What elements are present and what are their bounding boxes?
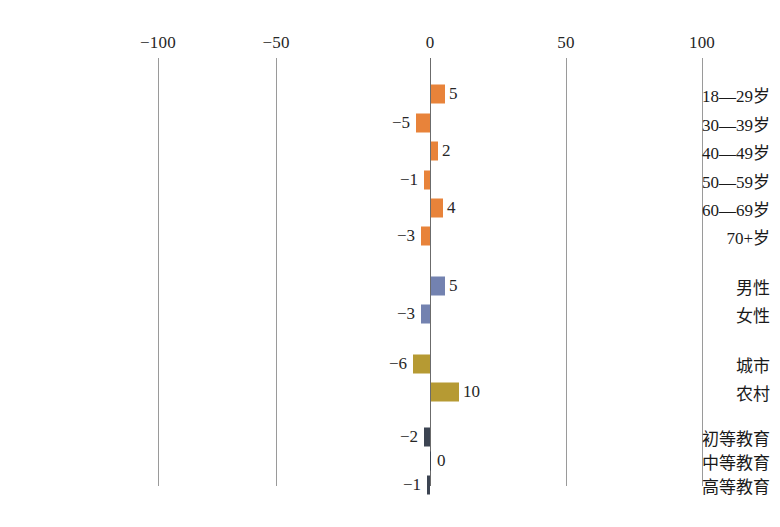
bar-row: 70+岁 −3 bbox=[0, 226, 780, 246]
value-label: 10 bbox=[459, 382, 480, 402]
value-label: 2 bbox=[438, 141, 451, 161]
bar-row: 中等教育 0 bbox=[0, 451, 780, 471]
bar-row: 男性 5 bbox=[0, 276, 780, 296]
category-label: 50—59岁 bbox=[400, 168, 780, 193]
value-label: −5 bbox=[392, 113, 414, 133]
x-tick-label--100: −100 bbox=[140, 33, 176, 53]
bar-row: 18—29岁 5 bbox=[0, 84, 780, 104]
category-label: 中等教育 bbox=[400, 449, 780, 474]
bar bbox=[427, 476, 430, 495]
bar bbox=[424, 171, 430, 190]
diverging-bar-chart: −100 −50 0 50 100 18—29岁 5 30—39岁 −5 40—… bbox=[0, 0, 780, 527]
category-label: 城市 bbox=[400, 352, 780, 377]
bar-row: 60—69岁 4 bbox=[0, 198, 780, 218]
value-label: −3 bbox=[397, 304, 419, 324]
bar bbox=[431, 277, 445, 296]
value-label: −3 bbox=[397, 226, 419, 246]
category-label: 30—39岁 bbox=[400, 111, 780, 136]
value-label: 0 bbox=[433, 451, 446, 471]
value-label: −1 bbox=[403, 475, 425, 495]
bar bbox=[413, 355, 430, 374]
bar bbox=[431, 383, 459, 402]
bar-row: 女性 −3 bbox=[0, 304, 780, 324]
category-label: 70+岁 bbox=[400, 224, 780, 249]
bar-row: 城市 −6 bbox=[0, 354, 780, 374]
bar-row: 初等教育 −2 bbox=[0, 427, 780, 447]
value-label: 5 bbox=[445, 84, 458, 104]
x-tick-label--50: −50 bbox=[262, 33, 289, 53]
category-label: 女性 bbox=[400, 302, 780, 327]
value-label: 5 bbox=[445, 276, 458, 296]
category-label: 高等教育 bbox=[400, 473, 780, 498]
bar bbox=[431, 199, 443, 218]
category-label: 初等教育 bbox=[400, 425, 780, 450]
bar bbox=[431, 85, 445, 104]
bar bbox=[421, 305, 430, 324]
x-tick-label-100: 100 bbox=[689, 33, 715, 53]
value-label: 4 bbox=[443, 198, 456, 218]
x-tick-label-50: 50 bbox=[557, 33, 574, 53]
category-label: 60—69岁 bbox=[400, 196, 780, 221]
bar-row: 高等教育 −1 bbox=[0, 475, 780, 495]
bar bbox=[416, 114, 430, 133]
bar-row: 农村 10 bbox=[0, 382, 780, 402]
x-tick-label-0: 0 bbox=[426, 33, 435, 53]
bar bbox=[424, 428, 430, 447]
bar-row: 40—49岁 2 bbox=[0, 141, 780, 161]
bar bbox=[430, 452, 431, 471]
bar bbox=[431, 142, 438, 161]
bar-row: 50—59岁 −1 bbox=[0, 170, 780, 190]
value-label: −6 bbox=[389, 354, 411, 374]
value-label: −1 bbox=[400, 170, 422, 190]
bar bbox=[421, 227, 430, 246]
value-label: −2 bbox=[400, 427, 422, 447]
bar-row: 30—39岁 −5 bbox=[0, 113, 780, 133]
category-label: 40—49岁 bbox=[400, 139, 780, 164]
